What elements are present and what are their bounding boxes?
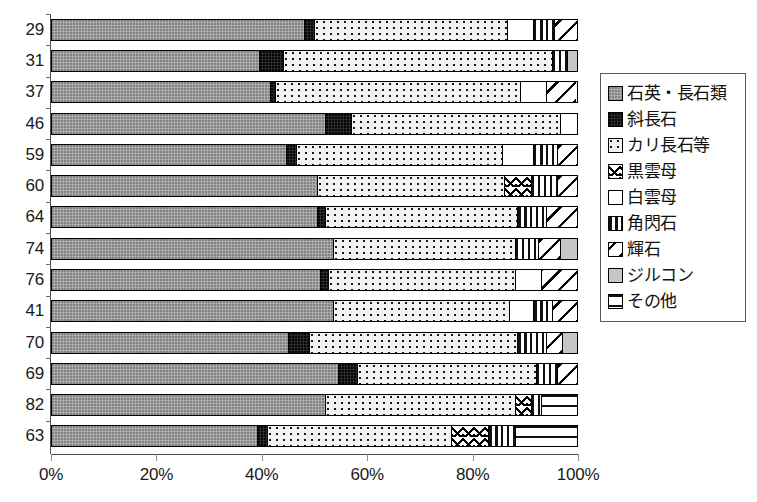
bar-row	[51, 394, 578, 416]
bar-segment-plag	[305, 20, 316, 40]
bar-segment-zirc	[561, 239, 578, 259]
bar-segment-plag	[339, 364, 357, 384]
x-axis-tick	[156, 454, 157, 461]
bar-segment-horn	[516, 239, 540, 259]
bar-row	[51, 332, 578, 354]
y-axis-tick	[46, 264, 51, 265]
bar-segment-qtz	[52, 82, 271, 102]
y-axis-label: 29	[2, 21, 44, 38]
bar-segment-qtz	[52, 20, 305, 40]
bar-row	[51, 425, 578, 447]
y-axis-label: 46	[2, 115, 44, 132]
bar-segment-musc	[508, 20, 534, 40]
bar-segment-horn	[534, 145, 558, 165]
x-axis-label: 60%	[332, 466, 402, 484]
bar-row	[51, 363, 578, 385]
bar-segment-musc	[521, 82, 547, 102]
bar-row	[51, 19, 578, 41]
bar-segment-qtz	[52, 426, 258, 446]
bar-segment-zirc	[563, 333, 578, 353]
y-axis-label: 59	[2, 146, 44, 163]
bar-row	[51, 269, 578, 291]
bar-segment-pyro	[547, 207, 578, 227]
x-axis-label: 0%	[16, 466, 86, 484]
y-axis-tick	[46, 202, 51, 203]
bar-segment-other	[516, 426, 578, 446]
y-axis-label: 82	[2, 396, 44, 413]
bar-segment-plag	[258, 426, 269, 446]
bar-segment-horn	[518, 207, 547, 227]
bar-segment-kfs	[315, 20, 507, 40]
bar-segment-qtz	[52, 364, 339, 384]
legend-item-qtz: 石英・長石類	[608, 80, 740, 106]
legend-swatch-icon	[608, 242, 623, 257]
bar-segment-pyro	[547, 82, 576, 102]
y-axis-label: 64	[2, 208, 44, 225]
bar-row	[51, 113, 578, 135]
bar-segment-horn	[534, 20, 555, 40]
x-axis-label: 20%	[121, 466, 191, 484]
bar-segment-musc	[516, 270, 542, 290]
legend-swatch-icon	[608, 164, 623, 179]
bar-segment-qtz	[52, 301, 334, 321]
bar-segment-plag	[289, 333, 310, 353]
bar-segment-qtz	[52, 333, 289, 353]
bar-segment-kfs	[326, 395, 516, 415]
y-axis-tick	[46, 108, 51, 109]
bar-segment-horn	[532, 176, 558, 196]
legend-label: その他	[627, 292, 677, 311]
bar-segment-horn	[532, 395, 543, 415]
bar-segment-plag	[318, 207, 326, 227]
bar-segment-qtz	[52, 51, 260, 71]
legend-label: 角閃石	[627, 214, 677, 233]
bar-segment-kfs	[276, 82, 521, 102]
bar-segment-kfs	[326, 207, 518, 227]
y-axis-label: 60	[2, 177, 44, 194]
bar-segment-kfs	[310, 333, 518, 353]
bar-row	[51, 175, 578, 197]
x-axis-label: 100%	[543, 466, 613, 484]
bar-segment-musc	[503, 145, 535, 165]
legend-label: 輝石	[627, 240, 660, 259]
y-axis-label: 74	[2, 240, 44, 257]
x-axis-tick	[578, 454, 579, 461]
legend-item-musc: 白雲母	[608, 184, 740, 210]
bar-segment-plag	[326, 114, 352, 134]
bar-segment-kfs	[318, 176, 505, 196]
y-axis-label: 69	[2, 365, 44, 382]
bar-segment-qtz	[52, 114, 326, 134]
bar-segment-horn	[534, 301, 552, 321]
bar-segment-kfs	[268, 426, 452, 446]
y-axis-tick	[46, 45, 51, 46]
bar-segment-pyro	[542, 270, 578, 290]
y-axis-tick	[46, 358, 51, 359]
bar-segment-qtz	[52, 207, 318, 227]
bar-segment-other	[542, 395, 578, 415]
legend-item-zirc: ジルコン	[608, 262, 740, 288]
legend-item-plag: 斜長石	[608, 106, 740, 132]
y-axis-tick	[46, 77, 51, 78]
legend-label: ジルコン	[627, 266, 693, 285]
bar-segment-kfs	[329, 270, 516, 290]
y-axis-tick	[46, 170, 51, 171]
bar-segment-kfs	[352, 114, 560, 134]
x-axis-line	[51, 454, 579, 455]
legend-item-pyro: 輝石	[608, 236, 740, 262]
bar-row	[51, 81, 578, 103]
bar-segment-pyro	[555, 20, 578, 40]
x-axis-label: 80%	[438, 466, 508, 484]
legend-item-biot: 黒雲母	[608, 158, 740, 184]
x-axis-label: 40%	[227, 466, 297, 484]
bar-segment-biot	[516, 395, 532, 415]
y-axis-tick	[46, 139, 51, 140]
bar-segment-musc	[561, 114, 578, 134]
bar-segment-horn	[553, 51, 569, 71]
chart-root: 2931374659606474764170698263 0%20%40%60%…	[0, 0, 757, 502]
legend-item-horn: 角閃石	[608, 210, 740, 236]
legend-swatch-icon	[608, 138, 623, 153]
bar-segment-qtz	[52, 176, 318, 196]
legend-label: 黒雲母	[627, 162, 677, 181]
legend-swatch-icon	[608, 86, 623, 101]
y-axis-tick	[46, 14, 51, 15]
bar-segment-pyro	[558, 145, 578, 165]
